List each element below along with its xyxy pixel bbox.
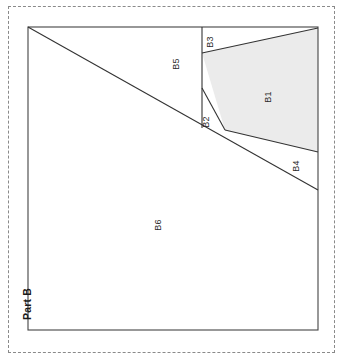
region-label-B5: B5 [171,58,181,69]
figure-canvas: Part B B1 B2 B3 B4 B5 B6 [0,0,344,360]
region-label-B6: B6 [153,219,163,230]
region-label-B4: B4 [291,160,301,171]
region-label-B1: B1 [263,91,273,102]
region-label-B3: B3 [205,36,215,47]
partition-diagram [0,0,344,360]
region-shape-B1 [202,28,318,152]
part-label: Part B [19,274,35,334]
region-label-B2: B2 [201,116,211,127]
